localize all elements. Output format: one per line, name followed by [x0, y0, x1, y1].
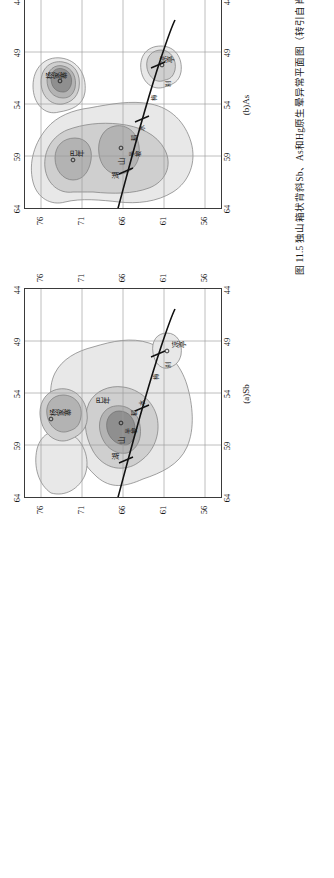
y-tick-right-a-4: 56 [199, 274, 209, 283]
panel-caption-a: (a)Sb [241, 384, 251, 404]
y-tick-left-a-4: 56 [199, 506, 209, 515]
figure-stage: 64 59 54 49 44 76 71 66 61 56 76 71 66 [0, 0, 334, 544]
x-tick-bot-b-1: 59 [222, 153, 232, 162]
y-tick-left-a-0: 76 [35, 506, 45, 515]
y-tick-left-b-0: 76 [35, 217, 45, 226]
x-tick-top-a-1: 59 [12, 442, 22, 451]
x-axis-top-a: 64 59 54 49 44 [8, 290, 23, 498]
y-tick-right-a-2: 66 [117, 274, 127, 283]
figure-caption: 图 11.5 独山箱状背斜Sb、As和Hg原生晕异常平面图（转引自肖宪国，201… [292, 0, 306, 544]
y-tick-left-a-2: 66 [117, 506, 127, 515]
contour-plot-b[interactable]: 杨家寨 巴年 凉亭 半坡 山 湖 稻 水 梅 刹 [24, 0, 222, 209]
x-tick-bot-a-4: 44 [222, 286, 232, 295]
y-tick-left-b-4: 56 [199, 217, 209, 226]
x-tick-bot-b-3: 49 [222, 49, 232, 58]
y-tick-left-b-3: 61 [158, 217, 168, 226]
x-tick-bot-a-2: 54 [222, 390, 232, 399]
contour-plot-a[interactable]: 杨家寨 巴年 凉亭 半坡 山 湖 稻 水 梅 刹 [24, 288, 222, 498]
x-tick-top-a-3: 49 [12, 338, 22, 347]
y-axis-left-a: 76 71 66 61 56 [24, 500, 220, 520]
contour-fills-a [36, 333, 193, 494]
y-tick-right-a-0: 76 [35, 274, 45, 283]
x-axis-top-b: 64 59 54 49 44 [8, 1, 23, 209]
y-tick-right-a-3: 61 [158, 274, 168, 283]
x-tick-top-b-0: 64 [12, 205, 22, 214]
x-tick-bot-a-1: 59 [222, 442, 232, 451]
y-axis-right-a: 76 71 66 61 56 [24, 268, 220, 288]
x-tick-bot-a-0: 64 [222, 494, 232, 503]
contour-svg-a [25, 289, 221, 497]
panel-a-sb: 64 59 54 49 44 76 71 66 61 56 76 71 66 [8, 258, 251, 530]
plot-wrap-a: 64 59 54 49 44 76 71 66 61 56 76 71 66 [8, 268, 240, 520]
contour-band-liangting-a [153, 333, 182, 368]
contour-band-3b-b [55, 138, 91, 180]
y-tick-left-a-1: 71 [76, 506, 86, 515]
panel-b-as: 64 59 54 49 44 76 71 66 61 56 76 71 66 [8, 0, 251, 241]
x-tick-bot-a-3: 49 [222, 338, 232, 347]
x-tick-top-a-4: 44 [12, 286, 22, 295]
x-tick-top-a-0: 64 [12, 494, 22, 503]
x-tick-bot-b-2: 54 [222, 101, 232, 110]
x-tick-top-b-2: 54 [12, 101, 22, 110]
x-axis-bottom-a: 64 59 54 49 44 [221, 290, 237, 498]
plot-wrap-b: 64 59 54 49 44 76 71 66 61 56 76 71 66 [8, 0, 240, 231]
contour-band-3b-a [47, 395, 82, 432]
x-tick-top-a-2: 54 [12, 390, 22, 399]
y-axis-left-b: 76 71 66 61 56 [24, 211, 220, 231]
x-tick-top-b-3: 49 [12, 49, 22, 58]
panel-row: 64 59 54 49 44 76 71 66 61 56 76 71 66 [0, 0, 286, 544]
y-tick-right-a-1: 71 [76, 274, 86, 283]
panel-caption-b: (b)As [241, 95, 251, 116]
x-tick-bot-b-4: 44 [222, 0, 232, 5]
y-tick-left-b-1: 71 [76, 217, 86, 226]
y-tick-left-b-2: 66 [117, 217, 127, 226]
x-axis-bottom-b: 64 59 54 49 44 [221, 1, 237, 209]
x-tick-top-b-1: 59 [12, 153, 22, 162]
contour-svg-b [25, 0, 221, 208]
x-tick-top-b-4: 44 [12, 0, 22, 5]
contour-band-2c-b [147, 50, 176, 81]
y-tick-left-a-3: 61 [158, 506, 168, 515]
x-tick-bot-b-0: 64 [222, 205, 232, 214]
contour-fills-b [31, 46, 193, 203]
